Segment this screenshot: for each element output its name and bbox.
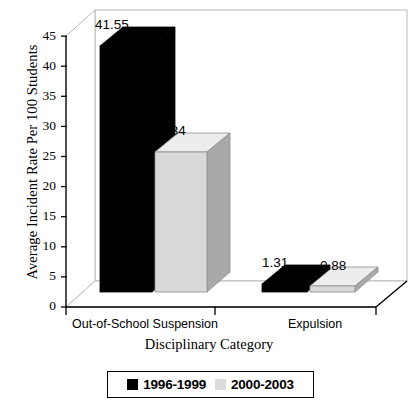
value-label-expulsion-2000-2003: 0.88 <box>320 258 346 273</box>
value-label-expulsion-1996-1999: 1.31 <box>262 255 288 270</box>
y-axis-title: Average Incident Rate Per 100 Students <box>24 42 44 282</box>
left-wall <box>66 10 95 307</box>
x-category-label-expulsion: Expulsion <box>245 317 385 331</box>
value-label-suspension-1996-1999: 41.55 <box>95 17 129 32</box>
legend-swatch-icon-1996-1999 <box>127 379 138 390</box>
bar-chart: 45 40 35 30 25 20 15 10 5 0 41.55 23.84 … <box>0 0 418 407</box>
legend-label-1996-1999: 1996-1999 <box>143 377 206 392</box>
y-tick-label-0: 0 <box>26 299 56 312</box>
y-tick-label-45: 45 <box>26 29 56 42</box>
value-label-suspension-2000-2003: 23.84 <box>152 123 186 138</box>
legend: 1996-1999 2000-2003 <box>107 371 314 398</box>
x-category-label-out-of-school-suspension: Out-of-School Suspension <box>50 317 240 331</box>
x-axis-title: Disciplinary Category <box>0 336 418 353</box>
legend-entry-1996-1999[interactable]: 1996-1999 <box>127 377 206 392</box>
legend-entry-2000-2003[interactable]: 2000-2003 <box>215 377 294 392</box>
legend-swatch-icon-2000-2003 <box>215 379 226 390</box>
legend-label-2000-2003: 2000-2003 <box>231 377 294 392</box>
bar-suspension-2000-2003 <box>155 133 230 292</box>
